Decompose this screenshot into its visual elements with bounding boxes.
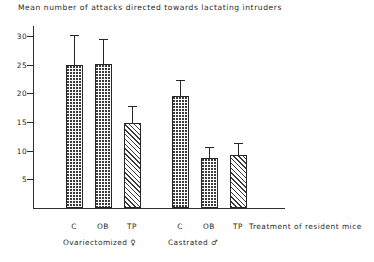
bar-cast-ob bbox=[201, 158, 218, 208]
x-label-ovx-c: C bbox=[59, 222, 89, 231]
y-axis-line bbox=[33, 26, 34, 209]
bar-ovx-c bbox=[66, 65, 83, 208]
y-tick-label-10: 10 bbox=[5, 147, 27, 156]
group-label-castrated: Castrated ♂ bbox=[168, 238, 218, 247]
bar-cast-c bbox=[172, 96, 189, 208]
group-label-ovariectomized: Ovariectomized ♀ bbox=[63, 238, 136, 247]
bar-cast-tp bbox=[230, 155, 247, 208]
y-tick-30 bbox=[27, 36, 33, 37]
error-bar-cast-ob bbox=[201, 147, 218, 158]
error-bar-ovx-ob bbox=[95, 39, 112, 64]
bar-ovx-tp bbox=[124, 123, 141, 208]
error-bar-ovx-c bbox=[66, 35, 83, 65]
y-tick-label-20: 20 bbox=[5, 89, 27, 98]
y-tick-15 bbox=[27, 122, 33, 123]
x-label-ovx-ob: OB bbox=[88, 222, 118, 231]
y-tick-25 bbox=[27, 65, 33, 66]
x-label-cast-c: C bbox=[165, 222, 195, 231]
y-tick-label-5: 5 bbox=[5, 175, 27, 184]
x-axis-line bbox=[33, 208, 285, 209]
x-label-ovx-tp: TP bbox=[117, 222, 147, 231]
figure: Mean number of attacks directed towards … bbox=[0, 0, 374, 262]
y-tick-label-25: 25 bbox=[5, 61, 27, 70]
y-tick-5 bbox=[27, 179, 33, 180]
y-tick-label-15: 15 bbox=[5, 118, 27, 127]
y-tick-20 bbox=[27, 93, 33, 94]
error-bar-ovx-tp bbox=[124, 106, 141, 123]
bar-ovx-ob bbox=[95, 64, 112, 208]
error-bar-cast-c bbox=[172, 80, 189, 96]
x-label-cast-ob: OB bbox=[194, 222, 224, 231]
y-tick-10 bbox=[27, 151, 33, 152]
error-bar-cast-tp bbox=[230, 143, 247, 155]
y-tick-label-30: 30 bbox=[5, 32, 27, 41]
x-axis-caption: Treatment of resident mice bbox=[249, 222, 362, 231]
plot-area: 30 25 20 15 10 5 bbox=[0, 0, 374, 262]
